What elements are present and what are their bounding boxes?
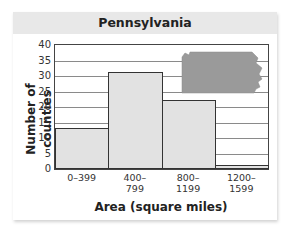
chart-title: Pennsylvania bbox=[13, 12, 277, 34]
plot-area bbox=[54, 44, 269, 170]
histogram-bar bbox=[162, 100, 216, 169]
x-tick-label: 400–799 bbox=[108, 172, 161, 194]
histogram-bar bbox=[215, 165, 269, 169]
y-tick-label: 5 bbox=[27, 149, 51, 159]
y-tick-label: 30 bbox=[27, 71, 51, 81]
y-tick-label: 25 bbox=[27, 87, 51, 97]
x-tick-label: 1200–1599 bbox=[215, 172, 268, 194]
x-tick-label: 0–399 bbox=[55, 172, 108, 183]
y-tick-label: 20 bbox=[27, 102, 51, 112]
pennsylvania-silhouette-icon bbox=[180, 51, 264, 94]
y-tick-label: 0 bbox=[27, 164, 51, 174]
x-axis-label: Area (square miles) bbox=[53, 200, 269, 214]
histogram-bar bbox=[55, 128, 109, 169]
y-tick-label: 35 bbox=[27, 56, 51, 66]
chart-panel: Pennsylvania Number of counties 05101520… bbox=[13, 12, 277, 220]
y-tick-label: 40 bbox=[27, 40, 51, 50]
x-tick-label: 800–1199 bbox=[162, 172, 215, 194]
histogram-bar bbox=[108, 72, 162, 169]
y-tick-label: 15 bbox=[27, 118, 51, 128]
y-tick-label: 10 bbox=[27, 133, 51, 143]
